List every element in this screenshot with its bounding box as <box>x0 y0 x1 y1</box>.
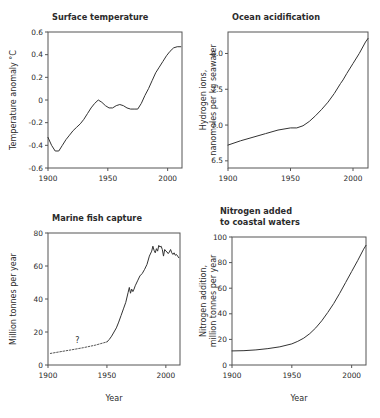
y-tick-label-marine-fish-capture-4: 80 <box>34 229 44 238</box>
y-tick-label-nitrogen-added-2: 40 <box>218 309 228 318</box>
plot-frame-ocean-acidification <box>228 32 368 168</box>
series-nitrogen-added-0 <box>232 245 366 351</box>
chart-svg-marine-fish-capture: Marine fish capture020406080190019502000… <box>0 205 190 418</box>
y-axis-label-marine-fish-capture-0: Million tonnes per year <box>9 252 18 344</box>
x-tick-label-surface-temperature-2: 2000 <box>158 174 177 183</box>
series-marine-fish-capture-1 <box>107 245 179 342</box>
chart-panel-surface-temperature: Surface temperature-0.6-0.4-0.200.20.40.… <box>0 0 190 209</box>
x-tick-label-surface-temperature-1: 1950 <box>98 174 117 183</box>
y-axis-label-surface-temperature-0: Temperature anomaly °C <box>9 50 18 151</box>
chart-panel-nitrogen-added: Nitrogen addedto coastal waters020406080… <box>190 205 380 414</box>
y-tick-label-nitrogen-added-0: 0 <box>222 361 227 370</box>
y-tick-label-marine-fish-capture-3: 60 <box>34 262 44 271</box>
series-ocean-acidification-0 <box>228 38 368 145</box>
y-axis-label-ocean-acidification-1: nanomoles per kg seawater <box>209 44 218 156</box>
y-tick-label-marine-fish-capture-1: 20 <box>34 328 44 337</box>
chart-title-nitrogen-added: Nitrogen added <box>220 206 292 216</box>
y-axis-label-nitrogen-added-1: million tonnes per year <box>209 254 218 347</box>
x-axis-label-nitrogen-added: Year <box>290 394 309 403</box>
x-tick-label-marine-fish-capture-0: 1900 <box>39 371 58 380</box>
y-tick-label-nitrogen-added-4: 80 <box>218 258 228 267</box>
chart-svg-nitrogen-added: Nitrogen addedto coastal waters020406080… <box>190 205 380 418</box>
y-tick-label-surface-temperature-1: -0.4 <box>29 141 44 150</box>
x-tick-label-ocean-acidification-1: 1950 <box>281 174 300 183</box>
plot-frame-nitrogen-added <box>232 237 366 365</box>
plot-frame-marine-fish-capture <box>48 233 180 365</box>
y-tick-label-surface-temperature-4: 0.2 <box>31 73 43 82</box>
y-tick-label-surface-temperature-0: -0.6 <box>29 164 44 173</box>
chart-svg-surface-temperature: Surface temperature-0.6-0.4-0.200.20.40.… <box>0 0 190 213</box>
x-tick-label-surface-temperature-0: 1900 <box>39 174 58 183</box>
y-tick-label-nitrogen-added-5: 100 <box>213 233 227 242</box>
y-tick-label-nitrogen-added-3: 60 <box>218 284 228 293</box>
chart-title-marine-fish-capture: Marine fish capture <box>52 213 142 223</box>
environmental-indicators-figure: Surface temperature-0.6-0.4-0.200.20.40.… <box>0 0 380 418</box>
y-tick-label-surface-temperature-6: 0.6 <box>31 28 43 37</box>
x-tick-label-nitrogen-added-2: 2000 <box>342 371 361 380</box>
chart-svg-ocean-acidification: Ocean acidification6.57.07.58.0190019502… <box>190 0 380 213</box>
y-axis-label-nitrogen-added-0: Nitrogen addition, <box>199 265 208 337</box>
x-tick-label-ocean-acidification-0: 1900 <box>219 174 238 183</box>
y-tick-label-surface-temperature-2: -0.2 <box>29 118 43 127</box>
y-tick-label-marine-fish-capture-0: 0 <box>38 361 43 370</box>
x-tick-label-marine-fish-capture-1: 1950 <box>98 371 117 380</box>
x-axis-label-marine-fish-capture: Year <box>105 394 124 403</box>
y-tick-label-marine-fish-capture-2: 40 <box>34 295 44 304</box>
x-tick-label-ocean-acidification-2: 2000 <box>344 174 363 183</box>
chart-title-ocean-acidification: Ocean acidification <box>232 12 320 22</box>
series-surface-temperature-0 <box>48 47 181 151</box>
x-tick-label-nitrogen-added-0: 1900 <box>223 371 242 380</box>
chart-title-nitrogen-added: to coastal waters <box>220 217 300 227</box>
y-tick-label-ocean-acidification-0: 6.5 <box>211 156 223 165</box>
chart-title-surface-temperature: Surface temperature <box>52 12 149 22</box>
y-axis-label-ocean-acidification-0: Hydrogen ions, <box>199 70 208 130</box>
y-tick-label-surface-temperature-5: 0.4 <box>31 50 43 59</box>
x-tick-label-nitrogen-added-1: 1950 <box>282 371 301 380</box>
y-tick-label-nitrogen-added-1: 20 <box>218 335 228 344</box>
plot-frame-surface-temperature <box>48 32 182 168</box>
uncertainty-question-mark: ? <box>75 336 79 345</box>
y-tick-label-surface-temperature-3: 0 <box>38 96 43 105</box>
chart-panel-marine-fish-capture: Marine fish capture020406080190019502000… <box>0 205 190 414</box>
x-tick-label-marine-fish-capture-2: 2000 <box>156 371 175 380</box>
chart-panel-ocean-acidification: Ocean acidification6.57.07.58.0190019502… <box>190 0 380 209</box>
